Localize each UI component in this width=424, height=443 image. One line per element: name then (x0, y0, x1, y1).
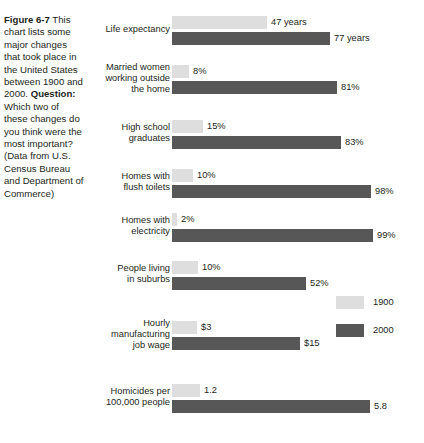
figure-caption-text-2: Which two of these changes do you think … (4, 101, 83, 199)
legend-swatch-icon (336, 296, 364, 309)
figure-caption: Figure 6-7 This chart lists some major c… (4, 14, 84, 200)
bar-1900[interactable] (172, 169, 193, 182)
category-label-line: Life expectancy (86, 24, 170, 35)
category-label-line: electricity (86, 226, 170, 237)
bar-2000[interactable] (172, 81, 337, 94)
bar-value-label: 77 years (334, 32, 370, 45)
bar-2000[interactable] (172, 229, 373, 242)
bar-value-label: 10% (202, 261, 221, 274)
figure-caption-text-1: This chart lists some major changes that… (4, 14, 83, 99)
bar-pair: 1.25.8 (172, 384, 387, 413)
category-label: Homicides per100,000 people (86, 386, 170, 408)
legend-swatch-icon (336, 324, 364, 337)
bar-row: 2% (172, 213, 396, 226)
category-label-line: People living (86, 263, 170, 274)
category-label-line: High school (86, 122, 170, 133)
bar-value-label: 98% (375, 185, 394, 198)
category-label-line: Homes with (86, 171, 170, 182)
bar-1900[interactable] (172, 384, 200, 397)
bar-1900[interactable] (172, 321, 197, 334)
bar-value-label: 52% (310, 277, 329, 290)
bar-1900[interactable] (172, 213, 177, 226)
bar-row: 81% (172, 81, 360, 94)
bar-row: 1.2 (172, 384, 387, 397)
bar-pair: 47 years77 years (172, 16, 370, 45)
bar-pair: 10%98% (172, 169, 394, 198)
bar-value-label: 2% (181, 213, 194, 226)
bar-row: $15 (172, 337, 320, 350)
bar-2000[interactable] (172, 32, 330, 45)
bar-value-label: 83% (345, 136, 364, 149)
bar-value-label: 1.2 (204, 384, 217, 397)
bar-pair: $3$15 (172, 321, 320, 350)
legend-label: 2000 (373, 324, 394, 337)
bar-1900[interactable] (172, 65, 189, 78)
bar-value-label: 5.8 (374, 400, 387, 413)
bar-2000[interactable] (172, 185, 371, 198)
category-label: People livingin suburbs (86, 263, 170, 285)
bar-value-label: 47 years (271, 16, 307, 29)
bar-row: 47 years (172, 16, 370, 29)
category-label-line: Hourly (86, 318, 170, 329)
bar-row: 5.8 (172, 400, 387, 413)
category-label-line: working outside (86, 73, 170, 84)
bar-value-label: $15 (304, 337, 320, 350)
bar-pair: 2%99% (172, 213, 396, 242)
category-label-line: in suburbs (86, 274, 170, 285)
category-label: Homes withelectricity (86, 215, 170, 237)
bar-row: 8% (172, 65, 360, 78)
bar-2000[interactable] (172, 400, 370, 413)
bar-1900[interactable] (172, 261, 198, 274)
chart-legend: 19002000 (336, 296, 424, 337)
bar-value-label: $3 (201, 321, 211, 334)
bar-value-label: 81% (341, 81, 360, 94)
legend-label: 1900 (373, 296, 394, 309)
bar-value-label: 10% (197, 169, 216, 182)
bar-value-label: 8% (193, 65, 206, 78)
category-label: Life expectancy (86, 24, 170, 35)
category-label-line: 100,000 people (86, 397, 170, 408)
bar-chart: Life expectancy47 years77 yearsMarried w… (88, 0, 424, 443)
bar-row: 15% (172, 120, 364, 133)
bar-row: $3 (172, 321, 320, 334)
question-label: Question: (31, 88, 76, 99)
legend-item-2000[interactable]: 2000 (336, 324, 424, 337)
bar-1900[interactable] (172, 120, 203, 133)
bar-2000[interactable] (172, 337, 300, 350)
category-label-line: manufacturing (86, 329, 170, 340)
bar-row: 10% (172, 169, 394, 182)
category-label-line: graduates (86, 133, 170, 144)
category-label-line: job wage (86, 340, 170, 351)
bar-row: 83% (172, 136, 364, 149)
category-label: Homes withflush toilets (86, 171, 170, 193)
bar-2000[interactable] (172, 277, 306, 290)
bar-row: 99% (172, 229, 396, 242)
category-label-line: Homes with (86, 215, 170, 226)
bar-pair: 10%52% (172, 261, 329, 290)
bar-pair: 15%83% (172, 120, 364, 149)
legend-item-1900[interactable]: 1900 (336, 296, 424, 309)
bar-value-label: 15% (207, 120, 226, 133)
category-label: Married womenworking outsidethe home (86, 62, 170, 96)
bar-2000[interactable] (172, 136, 341, 149)
category-label-line: Homicides per (86, 386, 170, 397)
category-label-line: flush toilets (86, 182, 170, 193)
bar-row: 77 years (172, 32, 370, 45)
bar-row: 10% (172, 261, 329, 274)
bar-row: 98% (172, 185, 394, 198)
bar-1900[interactable] (172, 16, 267, 29)
category-label-line: Married women (86, 62, 170, 73)
bar-row: 52% (172, 277, 329, 290)
category-label: High schoolgraduates (86, 122, 170, 144)
category-label: Hourlymanufacturingjob wage (86, 318, 170, 352)
category-label-line: the home (86, 84, 170, 95)
figure-number: Figure 6-7 (4, 14, 50, 25)
bar-value-label: 99% (377, 229, 396, 242)
bar-pair: 8%81% (172, 65, 360, 94)
